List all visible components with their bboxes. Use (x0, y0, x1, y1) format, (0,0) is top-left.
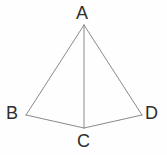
edge-c-d (84, 115, 142, 128)
edge-a-d (84, 25, 142, 115)
vertex-label-d: D (145, 104, 158, 122)
vertex-label-a: A (76, 4, 88, 22)
tetrahedron-diagram: A B C D (0, 0, 167, 155)
edge-b-c (26, 115, 84, 128)
edge-a-b (26, 25, 84, 115)
vertex-label-c: C (77, 132, 90, 150)
vertex-label-b: B (6, 104, 18, 122)
edge-group (26, 25, 142, 128)
